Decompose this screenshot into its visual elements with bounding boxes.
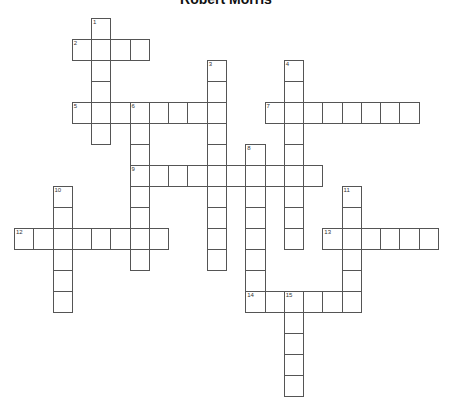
crossword-cell[interactable] bbox=[265, 165, 285, 187]
crossword-cell[interactable] bbox=[207, 144, 227, 166]
clue-number: 14 bbox=[247, 292, 254, 299]
crossword-cell[interactable]: 3 bbox=[207, 60, 227, 82]
crossword-cell[interactable]: 5 bbox=[72, 102, 92, 124]
crossword-cell[interactable] bbox=[207, 81, 227, 103]
crossword-cell[interactable] bbox=[245, 249, 265, 271]
crossword-cell[interactable] bbox=[284, 228, 304, 250]
crossword-cell[interactable] bbox=[72, 228, 92, 250]
crossword-cell[interactable] bbox=[207, 207, 227, 229]
crossword-cell[interactable] bbox=[342, 291, 362, 313]
crossword-cell[interactable] bbox=[110, 39, 130, 61]
crossword-cell[interactable] bbox=[207, 249, 227, 271]
crossword-cell[interactable] bbox=[245, 228, 265, 250]
crossword-cell[interactable] bbox=[284, 375, 304, 397]
crossword-cell[interactable] bbox=[53, 207, 73, 229]
crossword-cell[interactable] bbox=[168, 102, 188, 124]
crossword-cell[interactable] bbox=[91, 60, 111, 82]
crossword-cell[interactable] bbox=[91, 81, 111, 103]
crossword-cell[interactable]: 2 bbox=[72, 39, 92, 61]
crossword-cell[interactable] bbox=[149, 228, 169, 250]
crossword-cell[interactable] bbox=[207, 186, 227, 208]
clue-number: 11 bbox=[344, 187, 350, 194]
crossword-cell[interactable]: 8 bbox=[245, 144, 265, 166]
clue-number: 15 bbox=[286, 292, 293, 299]
crossword-cell[interactable] bbox=[187, 165, 207, 187]
crossword-cell[interactable] bbox=[53, 249, 73, 271]
crossword-cell[interactable] bbox=[342, 228, 362, 250]
crossword-cell[interactable] bbox=[226, 165, 246, 187]
crossword-cell[interactable] bbox=[245, 270, 265, 292]
crossword-cell[interactable] bbox=[380, 102, 400, 124]
crossword-cell[interactable] bbox=[207, 102, 227, 124]
crossword-cell[interactable] bbox=[53, 228, 73, 250]
crossword-cell[interactable] bbox=[284, 123, 304, 145]
crossword-cell[interactable]: 10 bbox=[53, 186, 73, 208]
crossword-cell[interactable] bbox=[284, 144, 304, 166]
crossword-cell[interactable]: 15 bbox=[284, 291, 304, 313]
crossword-cell[interactable] bbox=[130, 144, 150, 166]
crossword-cell[interactable] bbox=[110, 102, 130, 124]
crossword-cell[interactable] bbox=[361, 228, 381, 250]
clue-number: 12 bbox=[16, 229, 23, 236]
crossword-cell[interactable] bbox=[130, 207, 150, 229]
crossword-cell[interactable] bbox=[303, 291, 323, 313]
crossword-cell[interactable] bbox=[53, 270, 73, 292]
crossword-cell[interactable] bbox=[342, 270, 362, 292]
crossword-cell[interactable] bbox=[33, 228, 53, 250]
crossword-cell[interactable] bbox=[149, 165, 169, 187]
crossword-cell[interactable] bbox=[380, 228, 400, 250]
crossword-cell[interactable] bbox=[130, 186, 150, 208]
crossword-cell[interactable] bbox=[284, 81, 304, 103]
crossword-cell[interactable] bbox=[322, 291, 342, 313]
crossword-cell[interactable] bbox=[284, 186, 304, 208]
crossword-cell[interactable] bbox=[265, 291, 285, 313]
crossword-cell[interactable]: 6 bbox=[130, 102, 150, 124]
clue-number: 2 bbox=[74, 40, 77, 47]
clue-number: 7 bbox=[267, 103, 270, 110]
crossword-cell[interactable]: 4 bbox=[284, 60, 304, 82]
crossword-cell[interactable] bbox=[303, 165, 323, 187]
crossword-cell[interactable] bbox=[342, 102, 362, 124]
crossword-cell[interactable] bbox=[245, 165, 265, 187]
crossword-cell[interactable] bbox=[342, 207, 362, 229]
crossword-cell[interactable] bbox=[91, 39, 111, 61]
crossword-cell[interactable] bbox=[91, 228, 111, 250]
crossword-cell[interactable] bbox=[361, 102, 381, 124]
crossword-cell[interactable] bbox=[130, 249, 150, 271]
crossword-cell[interactable] bbox=[284, 207, 304, 229]
crossword-cell[interactable] bbox=[284, 312, 304, 334]
crossword-cell[interactable] bbox=[168, 165, 188, 187]
crossword-cell[interactable]: 1 bbox=[91, 18, 111, 40]
crossword-cell[interactable] bbox=[130, 228, 150, 250]
crossword-cell[interactable] bbox=[284, 102, 304, 124]
crossword-cell[interactable] bbox=[130, 123, 150, 145]
crossword-cell[interactable] bbox=[245, 186, 265, 208]
crossword-cell[interactable] bbox=[303, 102, 323, 124]
crossword-cell[interactable] bbox=[207, 123, 227, 145]
crossword-cell[interactable] bbox=[110, 228, 130, 250]
crossword-cell[interactable]: 7 bbox=[265, 102, 285, 124]
crossword-cell[interactable] bbox=[322, 102, 342, 124]
clue-number: 8 bbox=[247, 145, 250, 152]
crossword-cell[interactable] bbox=[187, 102, 207, 124]
crossword-cell[interactable]: 11 bbox=[342, 186, 362, 208]
crossword-cell[interactable] bbox=[207, 165, 227, 187]
crossword-cell[interactable] bbox=[399, 102, 419, 124]
crossword-cell[interactable] bbox=[91, 123, 111, 145]
crossword-cell[interactable] bbox=[245, 207, 265, 229]
crossword-cell[interactable]: 12 bbox=[14, 228, 34, 250]
crossword-cell[interactable] bbox=[284, 354, 304, 376]
crossword-cell[interactable] bbox=[53, 291, 73, 313]
crossword-cell[interactable] bbox=[419, 228, 439, 250]
crossword-cell[interactable] bbox=[130, 39, 150, 61]
crossword-cell[interactable] bbox=[342, 249, 362, 271]
crossword-cell[interactable]: 13 bbox=[322, 228, 342, 250]
crossword-cell[interactable] bbox=[149, 102, 169, 124]
crossword-cell[interactable] bbox=[207, 228, 227, 250]
crossword-cell[interactable] bbox=[284, 165, 304, 187]
crossword-cell[interactable]: 14 bbox=[245, 291, 265, 313]
crossword-cell[interactable] bbox=[399, 228, 419, 250]
crossword-cell[interactable] bbox=[91, 102, 111, 124]
crossword-cell[interactable]: 9 bbox=[130, 165, 150, 187]
crossword-cell[interactable] bbox=[284, 333, 304, 355]
